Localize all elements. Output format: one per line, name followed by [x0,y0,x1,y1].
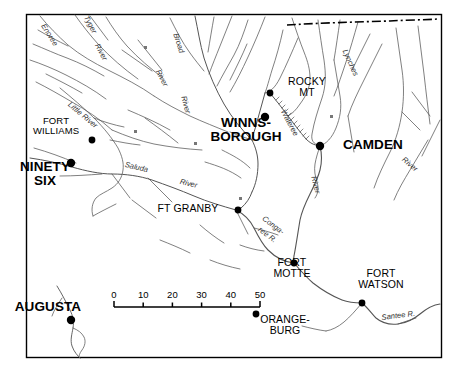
city-dot-fort-watson[interactable] [359,300,366,307]
scale-number-40: 40 [221,289,241,300]
city-label-orangeburg[interactable]: ORANGE- BURG [260,314,310,336]
city-label-fort-watson[interactable]: FORT WATSON [358,268,404,290]
city-label-camden[interactable]: CAMDEN [343,138,403,152]
map-border [27,15,442,358]
city-label-ninety-six[interactable]: NINETY SIX [20,160,70,188]
city-dot-ft-granby[interactable] [235,207,242,214]
map-canvas: NINETY SIXFORT WILLIAMSWINNS- BOROUGHROC… [0,0,456,372]
city-dot-rocky-mt[interactable] [267,90,274,97]
scale-number-10: 10 [133,289,153,300]
city-label-fort-williams[interactable]: FORT WILLIAMS [33,116,79,136]
city-label-rocky-mt[interactable]: ROCKY MT [288,76,326,98]
city-label-ft-granby[interactable]: FT GRANBY [158,203,219,214]
city-label-fort-motte[interactable]: FORT MOTTE [273,257,310,279]
scale-number-50: 50 [250,289,270,300]
city-label-winnsborough[interactable]: WINNS- BOROUGH [210,116,281,144]
city-dot-orangeburg[interactable] [253,311,260,318]
scale-number-30: 30 [192,289,212,300]
scale-number-0: 0 [104,289,124,300]
city-dot-fort-williams[interactable] [89,137,96,144]
city-label-augusta[interactable]: AUGUSTA [15,300,81,314]
scale-number-20: 20 [162,289,182,300]
city-dot-camden[interactable] [316,142,324,150]
city-dot-augusta[interactable] [67,316,75,324]
